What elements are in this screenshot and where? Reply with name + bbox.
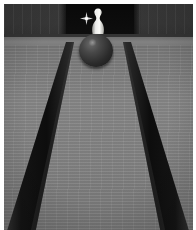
gutter-right	[4, 42, 193, 230]
bowling-lane-photo	[0, 0, 196, 230]
bowling-ball-highlight	[88, 39, 97, 46]
photo-frame	[4, 4, 193, 230]
bowling-ball-icon	[79, 34, 113, 67]
